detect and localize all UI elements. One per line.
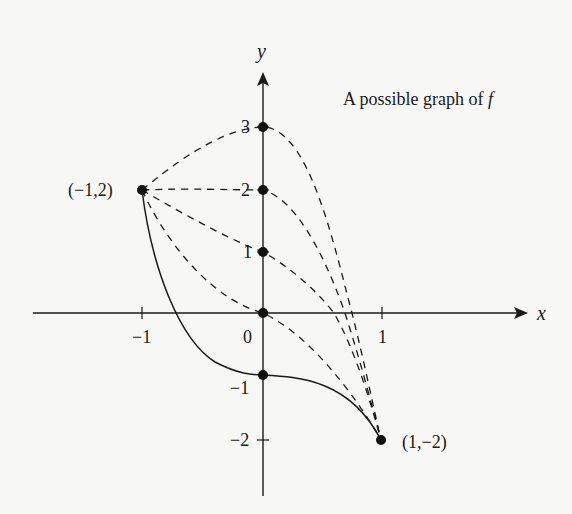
graph-canvas: −1 0 1 3 2 1 −1 −2 x y (−1,2) (1,−2) A p… [0, 0, 572, 514]
x-axis-label: x [536, 302, 546, 324]
point-0-2 [258, 185, 268, 195]
point-0-0 [258, 308, 268, 318]
y-axis-label: y [255, 40, 266, 63]
y-tick-label: 2 [241, 180, 250, 200]
y-tick-label: 1 [243, 242, 252, 262]
chart-title-prefix: A possible graph of [343, 89, 488, 109]
dashed-curve-via-3 [142, 127, 381, 440]
point-0-neg0.8 [258, 370, 268, 380]
chart-title-var: f [488, 89, 496, 109]
point-1-neg2 [376, 435, 386, 445]
point-label-1-neg2: (1,−2) [402, 432, 447, 453]
x-tick-label: 0 [243, 327, 252, 347]
x-tick-label: −1 [132, 327, 151, 347]
point-0-3 [258, 122, 268, 132]
y-tick-label: −2 [230, 430, 249, 450]
y-tick-label: 3 [241, 117, 250, 137]
point-label-neg1-2: (−1,2) [68, 180, 113, 201]
x-tick-label: 1 [378, 327, 387, 347]
chart-title: A possible graph of f [343, 89, 496, 109]
y-tick-label: −1 [230, 378, 249, 398]
point-neg1-2 [137, 185, 147, 195]
point-0-1 [258, 247, 268, 257]
